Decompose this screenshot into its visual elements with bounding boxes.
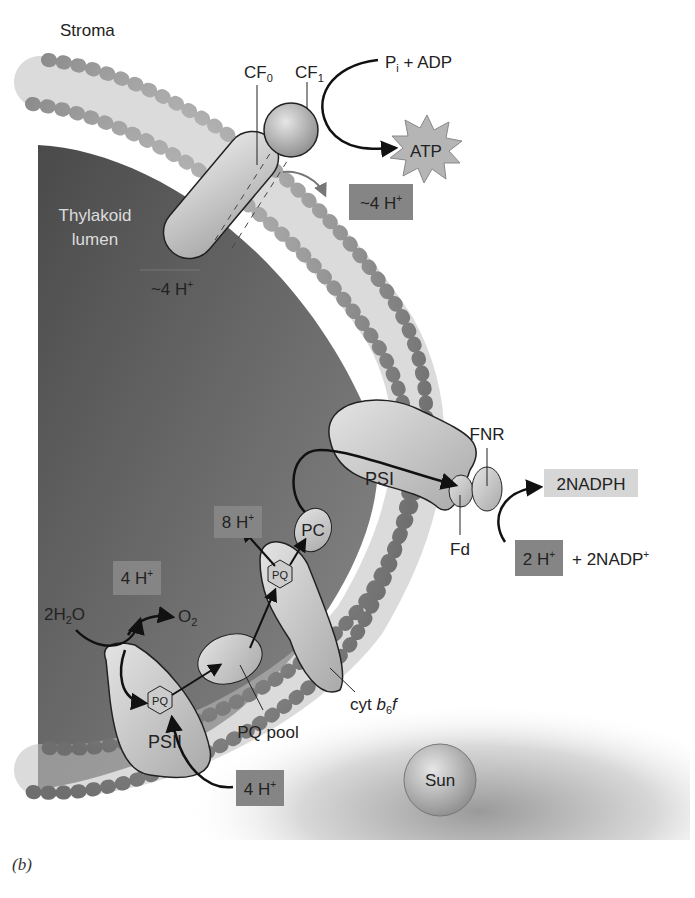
pq-label-cytb6f: PQ [272,569,288,581]
water-label: 2H2O [44,605,85,626]
sun-label: Sun [425,771,455,790]
psi-label: PSI [365,469,394,489]
nadp-label: + 2NADP+ [572,549,649,569]
stroma-label: Stroma [60,21,115,40]
fnr-label: FNR [470,425,505,444]
ferredoxin [449,475,473,507]
lumen-label-line2: lumen [72,230,118,249]
nadph-arrow [498,487,540,542]
figure-caption: (b) [12,855,32,875]
thylakoid-diagram: CF0 CF1 Pi + ADP ATP ~4 H+ ~4 H+ Stroma … [0,0,695,898]
proton-label-stroma-atp: ~4 H+ [360,193,402,213]
atp-label: ATP [410,142,442,161]
lumen-label-line1: Thylakoid [59,206,132,225]
cf0-label: CF0 [244,63,273,84]
cytb6f-label: cyt b6f [350,695,399,716]
atp-synthesis-arrow [322,60,395,149]
pc-label: PC [301,521,325,540]
pq-label-psii: PQ [152,695,168,707]
proton-label-lumen-atp: ~4 H+ [151,279,193,299]
nadph-label: 2NADPH [557,475,626,494]
pq-pool-label: PQ pool [237,723,298,742]
cf1-label: CF1 [295,63,324,84]
fd-label: Fd [450,540,470,559]
pi-adp-label: Pi + ADP [385,53,452,74]
